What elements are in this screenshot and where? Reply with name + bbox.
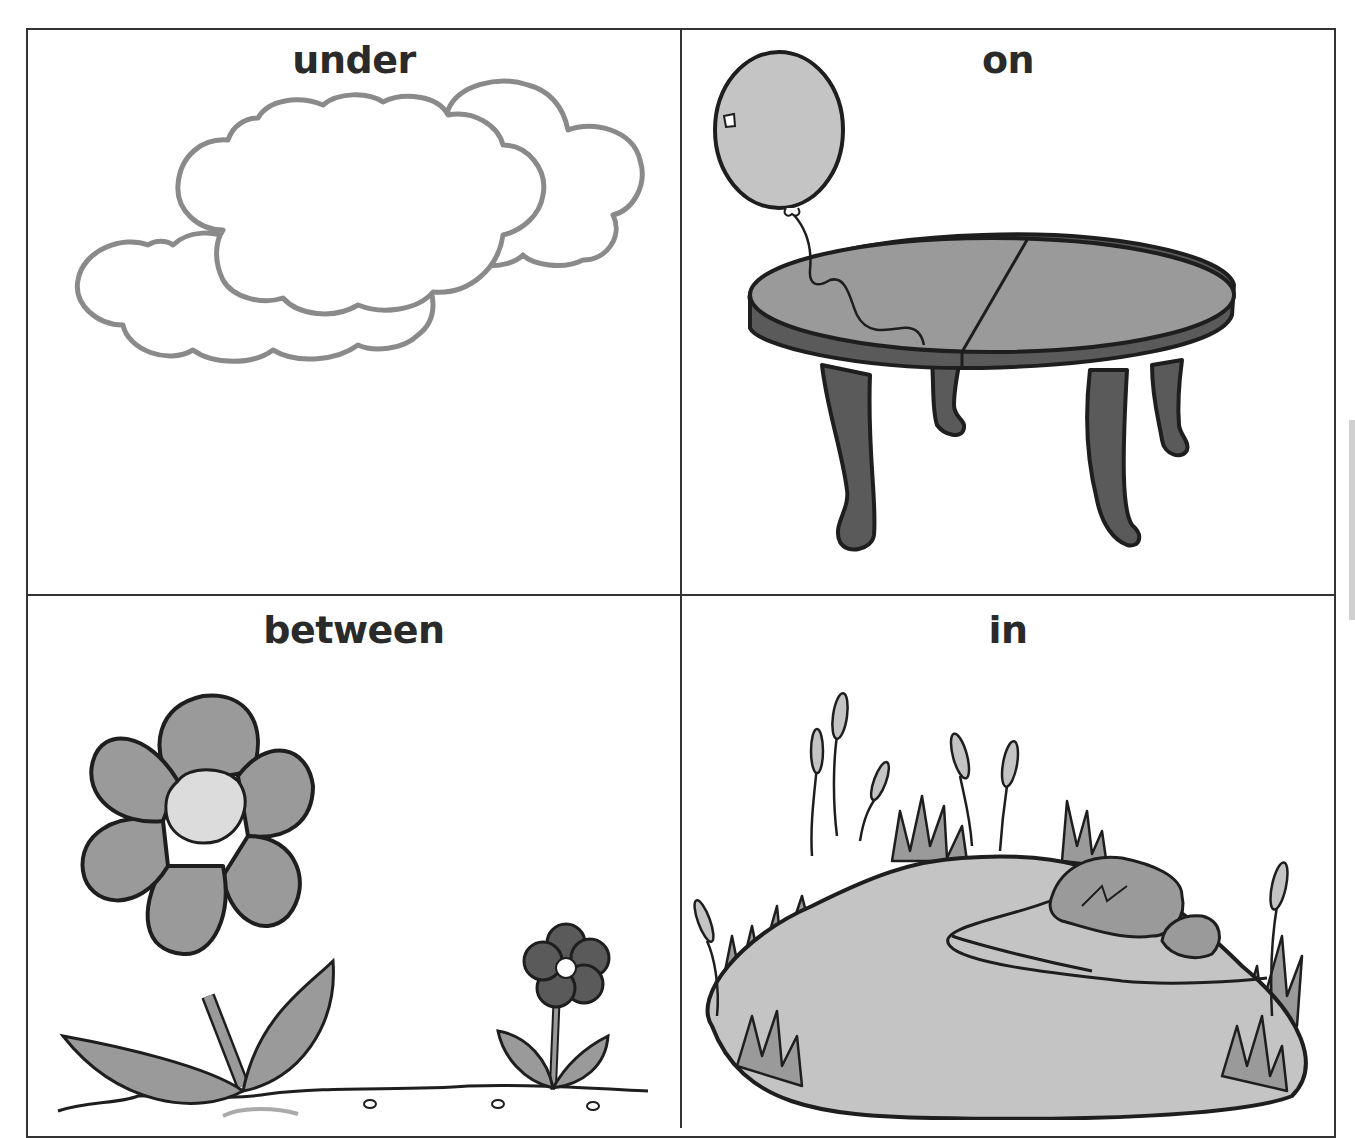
clouds-illustration bbox=[28, 30, 680, 594]
balloon-on-table-illustration bbox=[682, 30, 1334, 594]
cell-under: under bbox=[28, 30, 680, 594]
cell-in: in bbox=[682, 596, 1334, 1120]
cell-between: between bbox=[28, 596, 680, 1120]
cell-on: on bbox=[682, 30, 1334, 594]
page-edge-tab bbox=[1349, 420, 1355, 620]
two-flowers-illustration bbox=[28, 596, 680, 1120]
pond-illustration bbox=[682, 596, 1334, 1120]
balloon bbox=[715, 52, 843, 208]
